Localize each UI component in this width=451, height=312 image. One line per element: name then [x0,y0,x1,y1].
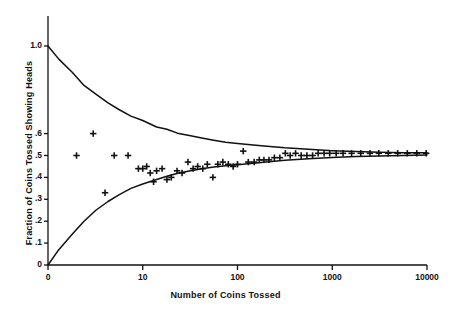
x-tick-label: 100 [208,272,268,282]
data-point [147,170,153,176]
data-point [298,152,304,158]
data-point [159,165,165,171]
data-point [111,152,117,158]
plot-canvas [0,0,451,312]
data-point [210,174,216,180]
x-tick-label: 1000 [302,272,362,282]
envelope-curve [48,155,427,265]
data-point [73,152,79,158]
data-point [204,161,210,167]
data-point [90,130,96,136]
chart-figure: 1.0.6.5.4.3.2.10 010100100010000 Number … [0,0,451,312]
data-point [304,152,310,158]
x-tick-marks [48,265,427,270]
data-point [185,159,191,165]
axis-lines [48,16,427,265]
data-point [240,148,246,154]
x-tick-label: 10000 [397,272,451,282]
data-point [102,190,108,196]
data-point [125,152,131,158]
data-point [153,168,159,174]
envelope-curve [48,46,427,153]
data-point [315,150,321,156]
x-tick-label: 10 [113,272,173,282]
x-axis-title: Number of Coins Tossed [0,290,451,300]
y-axis-title: Fraction of Coins Tossed Showing Heads [24,28,34,278]
